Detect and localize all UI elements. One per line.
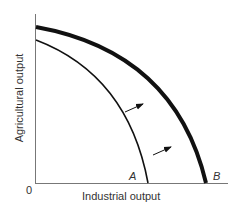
shift-arrow-icon: [153, 147, 171, 155]
y-axis-label: Agricultural output: [13, 48, 25, 148]
curve-b-label: B: [213, 170, 220, 182]
ppf-diagram: [0, 0, 237, 212]
x-axis-label: Industrial output: [82, 190, 160, 202]
shift-arrow-icon: [125, 104, 143, 112]
origin-label: 0: [26, 184, 32, 196]
curve-a: [36, 40, 148, 183]
curve-b: [36, 27, 206, 183]
curve-a-label: A: [129, 170, 136, 182]
